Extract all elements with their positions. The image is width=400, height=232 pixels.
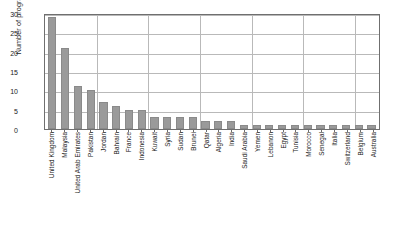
bar[interactable] (367, 125, 375, 129)
x-label-slot: Jordan (96, 132, 109, 228)
bar-slot (365, 15, 378, 129)
y-tick-label: 30 (0, 11, 18, 18)
bar[interactable] (125, 110, 133, 129)
bar[interactable] (176, 117, 184, 129)
y-tick-label: 25 (0, 30, 18, 37)
bar-slot (225, 15, 238, 129)
bar-slot (123, 15, 136, 129)
bar-slot (301, 15, 314, 129)
x-tick-label: Saudi Arabia (241, 132, 248, 169)
bar[interactable] (61, 48, 69, 129)
x-label-slot: Qatar (199, 132, 212, 228)
x-tick-label: Malaysia (61, 132, 68, 158)
x-tick-label: Australia (369, 132, 376, 157)
bar-slot (186, 15, 199, 129)
bar[interactable] (74, 86, 82, 129)
x-axis-tick-labels: United KingdomMalaysiaUnited Arab Emirat… (44, 132, 380, 228)
bar-slot (97, 15, 110, 129)
x-label-slot: Tunisia (289, 132, 302, 228)
x-label-slot: United Kingdom (45, 132, 58, 228)
bar-slot (263, 15, 276, 129)
x-label-slot: United Arab Emirates (71, 132, 84, 228)
y-tick-label: 20 (0, 49, 18, 56)
x-tick-label: Morocco (305, 132, 312, 157)
bar[interactable] (150, 117, 158, 129)
x-tick-label: Syria (164, 132, 171, 147)
x-tick-label: Qatar (202, 132, 209, 148)
x-label-slot: Malaysia (58, 132, 71, 228)
y-tick-label: 0 (0, 127, 18, 134)
x-tick-label: Indonesia (138, 132, 145, 160)
bar-slot (161, 15, 174, 129)
bar[interactable] (163, 117, 171, 129)
plot-area (44, 14, 380, 130)
x-tick-label: Kuwait (151, 132, 158, 151)
x-label-slot: France (122, 132, 135, 228)
bar[interactable] (214, 121, 222, 129)
x-tick-label: Tunisia (292, 132, 299, 153)
x-label-slot: Morocco (302, 132, 315, 228)
x-tick-label: France (125, 132, 132, 152)
bar[interactable] (189, 117, 197, 129)
y-tick-label: 5 (0, 107, 18, 114)
bar-slot (276, 15, 289, 129)
bar-slot (174, 15, 187, 129)
bar-slot (148, 15, 161, 129)
x-tick-label: Lebanon (266, 132, 273, 157)
x-tick-label: Sudan (176, 132, 183, 151)
bar[interactable] (112, 106, 120, 129)
bar[interactable] (87, 90, 95, 129)
x-label-slot: Brunei (186, 132, 199, 228)
x-label-slot: Sudan (173, 132, 186, 228)
x-label-slot: Kuwait (148, 132, 161, 228)
x-tick-label: Belgium (356, 132, 363, 155)
x-tick-label: Egypt (279, 132, 286, 149)
x-label-slot: Syria (161, 132, 174, 228)
x-label-slot: Switzerland (340, 132, 353, 228)
x-label-slot: Belgium (353, 132, 366, 228)
x-label-slot: Bahrain (109, 132, 122, 228)
x-label-slot: Senegal (315, 132, 328, 228)
x-tick-label: India (228, 132, 235, 146)
x-label-slot: Australia (366, 132, 379, 228)
bar[interactable] (99, 102, 107, 129)
y-tick-label: 15 (0, 69, 18, 76)
x-tick-label: Jordan (99, 132, 106, 152)
bar-slot (352, 15, 365, 129)
bar-slot (59, 15, 72, 129)
x-tick-label: Bahrain (112, 132, 119, 154)
bar-series (45, 15, 379, 129)
bar-slot (250, 15, 263, 129)
bar-slot (135, 15, 148, 129)
x-tick-label: Pakistan (86, 132, 93, 157)
x-tick-label: United Arab Emirates (74, 132, 81, 193)
bar-slot (289, 15, 302, 129)
bar-slot (110, 15, 123, 129)
x-label-slot: Indonesia (135, 132, 148, 228)
x-label-slot: Yemen (251, 132, 264, 228)
bar-slot (84, 15, 97, 129)
x-tick-label: Yemen (253, 132, 260, 152)
x-tick-label: Switzerland (343, 132, 350, 166)
x-label-slot: Saudi Arabia (238, 132, 251, 228)
bar[interactable] (48, 17, 56, 129)
bar-slot (46, 15, 59, 129)
bar[interactable] (227, 121, 235, 129)
x-tick-label: United Kingdom (48, 132, 55, 178)
bar[interactable] (201, 121, 209, 129)
bar-chart-figure: Number of programs United KingdomMalaysi… (0, 0, 400, 232)
y-tick-label: 10 (0, 88, 18, 95)
bar-slot (199, 15, 212, 129)
bar-slot (340, 15, 353, 129)
bar-slot (237, 15, 250, 129)
x-label-slot: Algeria (212, 132, 225, 228)
x-label-slot: Pakistan (84, 132, 97, 228)
x-tick-label: Brunei (189, 132, 196, 151)
x-tick-label: Senegal (318, 132, 325, 156)
x-label-slot: India (225, 132, 238, 228)
bar-slot (72, 15, 85, 129)
bar-slot (314, 15, 327, 129)
bar-slot (212, 15, 225, 129)
x-tick-label: Algeria (215, 132, 222, 152)
bar[interactable] (138, 110, 146, 129)
